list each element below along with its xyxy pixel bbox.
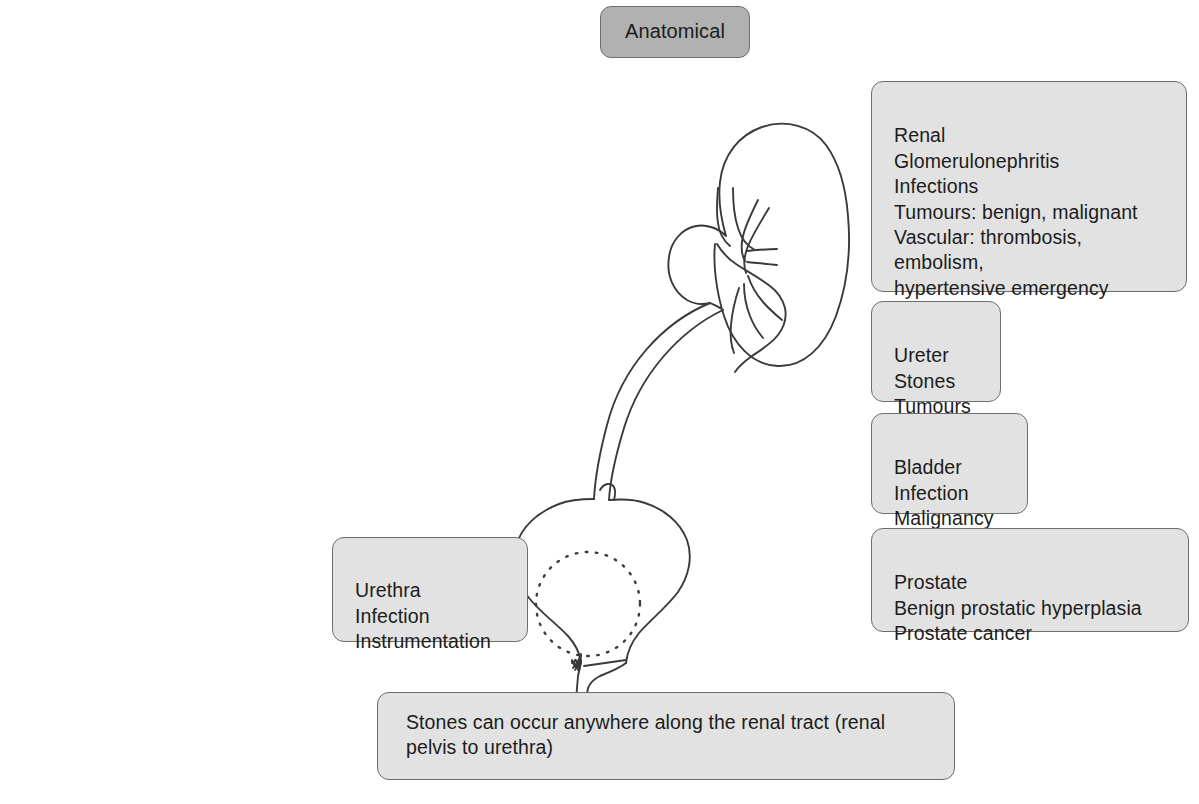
bladder-outline xyxy=(514,499,690,663)
stones-caption-box: Stones can occur anywhere along the rena… xyxy=(377,692,955,780)
renal-calyx-lower-mid xyxy=(744,284,763,338)
renal-calyx-mid-bar-1 xyxy=(747,249,777,251)
stones-caption-text: Stones can occur anywhere along the rena… xyxy=(406,711,885,758)
renal-calyx-mid-upper xyxy=(744,208,769,273)
kidney-outline xyxy=(668,124,849,366)
urethra-shaft xyxy=(575,661,581,670)
prostate-causes-text: Prostate Benign prostatic hyperplasia Pr… xyxy=(894,570,1188,646)
urethra-wall-left xyxy=(578,662,581,670)
urethra-tube-walls xyxy=(576,660,626,666)
prostate-causes-box: Prostate Benign prostatic hyperplasia Pr… xyxy=(871,528,1189,632)
urethra-causes-box: Urethra Infection Instrumentation xyxy=(332,537,528,642)
ureter-tube-right-wall xyxy=(609,310,723,500)
page-title: Anatomical xyxy=(625,19,725,44)
anatomical-title-box: Anatomical xyxy=(600,6,750,58)
urethra-outer-left xyxy=(577,656,581,666)
urethra-descending-left xyxy=(573,664,576,668)
renal-calyx-mid-bar-2 xyxy=(747,262,777,265)
renal-calyx-upper-mid xyxy=(733,188,755,250)
ureter-causes-box: Ureter Stones Tumours xyxy=(871,301,1001,402)
renal-calyx-lower-upper xyxy=(748,276,782,320)
bladder-interior-mark xyxy=(600,484,615,500)
ureter-tube-left-wall xyxy=(594,303,710,499)
renal-causes-box: Renal Glomerulonephritis Infections Tumo… xyxy=(871,81,1187,292)
urethra-left-wall xyxy=(575,655,581,667)
renal-calyx-upper-left xyxy=(717,188,730,246)
renal-pelvis-calyces xyxy=(717,244,786,372)
figure-canvas: Anatomical Renal Glomerulonephritis Infe… xyxy=(0,0,1199,804)
renal-calyx-lower-left xyxy=(731,288,739,353)
bladder-causes-text: Bladder Infection Malignancy xyxy=(894,455,1027,531)
urethra-causes-text: Urethra Infection Instrumentation xyxy=(355,578,527,654)
prostate-dotted-circle xyxy=(536,552,640,656)
ureter-causes-text: Ureter Stones Tumours xyxy=(894,343,1000,419)
urethra-tube-left-wall xyxy=(572,660,581,667)
urethra-shaft-left xyxy=(577,654,581,668)
bladder-causes-box: Bladder Infection Malignancy xyxy=(871,413,1028,514)
renal-calyx-upper-right xyxy=(742,200,758,261)
renal-causes-text: Renal Glomerulonephritis Infections Tumo… xyxy=(894,123,1186,301)
